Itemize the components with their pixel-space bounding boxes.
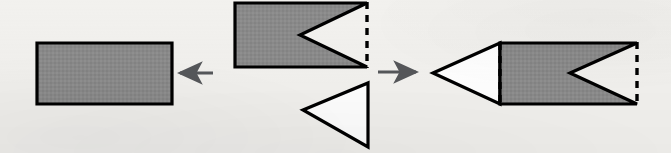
white-triangle (303, 83, 368, 147)
shaded-rectangle (37, 43, 172, 104)
right-composite-shape-group (433, 42, 637, 105)
diagram-canvas (0, 0, 671, 153)
notched-rectangle (235, 3, 367, 67)
attached-notched-rectangle (500, 43, 637, 104)
attached-white-triangle (433, 43, 500, 104)
shape-decomposition-diagram (0, 0, 671, 153)
middle-white-triangle-group (303, 83, 368, 147)
left-rectangle-group (37, 43, 172, 104)
middle-notched-rectangle-group (235, 2, 367, 68)
